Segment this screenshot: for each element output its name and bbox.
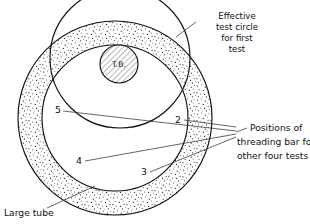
label-large-tube: Large tube	[4, 207, 54, 218]
technical-diagram-svg: Effective test circle for first test Pos…	[0, 0, 310, 224]
large-tube-wall	[0, 0, 310, 224]
marker-label-5: 5	[55, 104, 61, 115]
effective-test-circle-line-3: for first	[221, 33, 253, 43]
marker-label-2: 2	[175, 114, 181, 125]
label-threading-bar: T.B.	[111, 60, 126, 69]
effective-test-circle-line-4: test	[229, 44, 246, 54]
threading-bar-positions-line-1: Positions of	[250, 122, 303, 133]
effective-test-circle-line-2: test circle	[216, 22, 258, 32]
effective-test-circle-line-1: Effective	[218, 11, 256, 21]
marker-label-3: 3	[141, 166, 147, 177]
threading-bar-positions-line-3: other four tests	[237, 150, 308, 161]
threading-bar-positions-line-2: threading bar for	[237, 136, 310, 147]
diagram-canvas: Effective test circle for first test Pos…	[0, 0, 310, 224]
marker-label-4: 4	[76, 155, 82, 166]
